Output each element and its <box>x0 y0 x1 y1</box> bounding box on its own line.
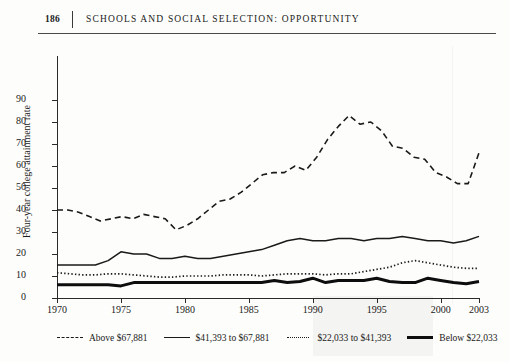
legend-swatch-below-22033 <box>407 333 433 343</box>
legend-entry: $22,033 to $41,393 <box>285 333 391 343</box>
legend-swatch-above-67881 <box>57 333 83 343</box>
page-number: 186 <box>45 14 60 24</box>
header-horizontal-rule <box>38 33 496 34</box>
legend-swatch-22033-41393 <box>285 333 311 343</box>
legend-entry: Below $22,033 <box>407 333 497 343</box>
series-line-dashed <box>57 115 479 229</box>
legend-label: Below $22,033 <box>439 333 497 343</box>
chapter-title: SCHOOLS AND SOCIAL SELECTION: OPPORTUNIT… <box>86 14 360 24</box>
legend-label: $22,033 to $41,393 <box>317 333 391 343</box>
line-chart-figure: Four-year college attainment rate 010203… <box>0 46 510 362</box>
legend-label: $41,393 to $67,881 <box>196 333 270 343</box>
chart-legend: Above $67,881$41,393 to $67,881$22,033 t… <box>57 328 487 348</box>
series-line-dotted <box>57 261 479 278</box>
header-divider-rule <box>72 11 73 28</box>
legend-label: Above $67,881 <box>89 333 148 343</box>
series-line-thick <box>57 278 479 286</box>
scan-artifact <box>452 46 453 304</box>
chart-series-layer <box>0 46 510 362</box>
legend-entry: $41,393 to $67,881 <box>164 333 270 343</box>
page-running-head: 186 SCHOOLS AND SOCIAL SELECTION: OPPORT… <box>0 0 510 46</box>
legend-entry: Above $67,881 <box>57 333 148 343</box>
legend-swatch-41393-67881 <box>164 333 190 343</box>
